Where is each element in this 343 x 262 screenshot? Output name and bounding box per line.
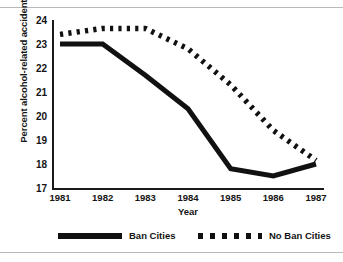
- y-tick-19: 19: [36, 135, 47, 146]
- y-tick-23: 23: [36, 39, 47, 50]
- plot-area: 1718192021222324 19811982198319841985198…: [52, 20, 324, 190]
- x-tick-1981: 1981: [49, 192, 70, 203]
- legend-item-no-ban-cities: No Ban Cities: [198, 230, 331, 241]
- x-tick-1987: 1987: [305, 192, 326, 203]
- x-axis-title: Year: [52, 206, 324, 217]
- x-tick-1984: 1984: [177, 192, 198, 203]
- legend-label-no-ban-cities: No Ban Cities: [269, 230, 331, 241]
- bottom-divider: [0, 252, 343, 253]
- series-layer: [52, 20, 324, 190]
- legend-label-ban-cities: Ban Cities: [129, 230, 175, 241]
- x-tick-1986: 1986: [263, 192, 284, 203]
- y-tick-17: 17: [36, 183, 47, 194]
- x-tick-1982: 1982: [92, 192, 113, 203]
- chart-legend: Ban Cities No Ban Cities: [0, 230, 343, 246]
- series-line-ban-cities: [60, 44, 316, 176]
- solid-line-swatch: [58, 233, 122, 239]
- y-tick-22: 22: [36, 63, 47, 74]
- dotted-line-swatch: [198, 233, 262, 239]
- chart-figure: Percent alcohol-related accidents 171819…: [0, 9, 343, 252]
- legend-item-ban-cities: Ban Cities: [58, 230, 175, 241]
- y-tick-18: 18: [36, 159, 47, 170]
- x-tick-1985: 1985: [220, 192, 241, 203]
- y-tick-21: 21: [36, 87, 47, 98]
- x-tick-1983: 1983: [135, 192, 156, 203]
- top-divider: [0, 7, 343, 8]
- y-axis-title: Percent alcohol-related accidents: [18, 0, 29, 154]
- series-line-no-ban-cities: [60, 28, 316, 160]
- y-tick-20: 20: [36, 111, 47, 122]
- y-tick-24: 24: [36, 15, 47, 26]
